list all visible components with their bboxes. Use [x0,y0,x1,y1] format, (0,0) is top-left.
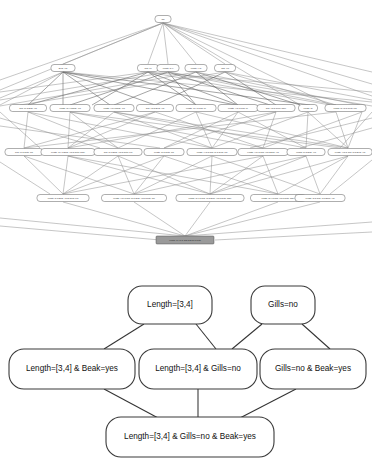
lattice-node[interactable]: Gills=no & Beak=yes [10,105,47,112]
lattice-node[interactable]: Gills=yes & Beak=yes [137,105,174,112]
svg-text:Length=[3,4]: Length=[3,4] [147,300,193,309]
svg-text:Gills=no & Beak=yes: Gills=no & Beak=yes [19,107,37,109]
svg-text:Length=[5] & Beak=yes & Teeth=: Length=[5] & Beak=yes & Teeth=few [48,197,79,199]
lattice-node[interactable]: Length=[3,4] & Beak=yes [50,105,90,112]
edge-length34-to-length34gills [196,324,216,349]
lattice-svg: Top Beak=yes Gills=no Length=[3,4] Lengt… [0,0,372,262]
svg-text:Gills=no & Beak=yes & Teeth=fe: Gills=no & Beak=yes & Teeth=few [104,151,133,153]
svg-text:Length=[5] & Teeth=few: Length=[5] & Teeth=few [154,151,175,153]
concept-sublattice-panel: Length=[3,4] Gills=no Length=[3,4] & Bea… [0,262,372,476]
lattice-node[interactable]: Length=[5] & Beak=yes [287,149,325,156]
lattice-node[interactable]: Length=[4,5] & Gills=yes & Beak=yes [238,149,288,156]
lattice-node[interactable]: Length=[3,4] [157,65,179,72]
svg-text:Gills=no: Gills=no [268,300,298,309]
lattice-node[interactable]: Length=[4,5] & Beak=yes [94,105,134,112]
lattice-node[interactable]: Length=[3,4] & Gills=no & Beak=yes & Tee… [176,195,244,202]
lattice-node[interactable]: Beak=yes [51,65,75,72]
lattice-node[interactable]: Gills=no & Teeth=few [5,149,43,156]
svg-text:Gills=no: Gills=no [145,67,152,69]
lattice-edges [0,23,372,240]
edge-length34beak-to-bottom [104,389,160,419]
lattice-node[interactable]: Length=[5] & Beak=yes & Teeth=few [37,195,89,202]
svg-text:Top: Top [161,18,164,20]
lattice-node[interactable]: Length=[3,4] & Gills=no [176,105,216,112]
lattice-node[interactable]: Length=[3,4,5] & Teeth=few [325,105,366,112]
svg-text:Gills=yes: Gills=yes [221,67,229,69]
concept-node-length-3-4-and-beak-yes[interactable]: Length=[3,4] & Beak=yes [9,349,135,389]
lattice-node[interactable]: Gills=no & Beak=yes & Teeth=few [94,149,142,156]
lattice-node[interactable]: Length=[3,4] & Beak=yes & Teeth=many [41,149,95,156]
lattice-node[interactable]: Length=[4,5] & Gills=no [218,105,258,112]
svg-text:Length=[3,4] & Beak=yes: Length=[3,4] & Beak=yes [26,364,118,373]
full-concept-lattice-panel: Top Beak=yes Gills=no Length=[3,4] Lengt… [0,0,372,262]
svg-text:Length=[5] & Beak=yes: Length=[5] & Beak=yes [296,151,316,153]
concept-node-length-3-4-and-gills-no-and-beak-yes[interactable]: Length=[3,4] & Gills=no & Beak=yes [106,417,274,457]
lattice-node[interactable]: Length=[4,5] & Gills=no & Beak=yes & Tee… [102,195,167,202]
lattice-node-highlighted[interactable]: Length=[3,4,5] & Gills & Beak & Teeth [156,236,214,244]
edge-gillsno-to-length34gills [232,324,262,349]
svg-text:Length=[3,4] & Gills=no & Beak: Length=[3,4] & Gills=no & Beak=yes [124,432,256,441]
lattice-node[interactable]: Length=[5] & Gills=no & Beak=yes [295,195,345,202]
lattice-node[interactable]: Length=[4,5] & Gills=no & Beak=yes [328,149,372,156]
lattice-node[interactable]: Top [155,16,171,23]
svg-text:Beak=yes: Beak=yes [59,67,67,69]
lattice-node[interactable]: Length=[5] & Teeth=few [144,149,184,156]
concept-svg: Length=[3,4] Gills=no Length=[3,4] & Bea… [0,262,372,476]
svg-text:Length=[5] & Gills=no & Beak=y: Length=[5] & Gills=no & Beak=yes [306,197,335,199]
lattice-node[interactable]: Gills=yes & Teeth=many [257,105,295,112]
concept-node-gills-no-and-beak-yes[interactable]: Gills=no & Beak=yes [260,349,366,389]
svg-text:Gills=yes & Teeth=many: Gills=yes & Teeth=many [266,107,286,109]
edge-length34-to-length34beak [104,324,144,349]
lattice-node[interactable]: Length=[4,5] [185,65,207,72]
lattice-node[interactable]: Length=[4,5] & Gills=no & Teeth=few [187,149,237,156]
concept-node-gills-no[interactable]: Gills=no [251,286,315,324]
edge-gillsno-to-gillsnobeak [302,324,330,349]
lattice-node[interactable]: Gills=no [138,65,159,72]
concept-node-length-3-4-and-gills-no[interactable]: Length=[3,4] & Gills=no [139,349,257,389]
lattice-node[interactable]: Gills=yes [215,65,236,72]
svg-text:Gills=no & Teeth=few: Gills=no & Teeth=few [15,151,33,153]
svg-text:Gills=yes & Beak=yes: Gills=yes & Beak=yes [146,107,164,109]
svg-text:Length=[5]: Length=[5] [304,107,313,109]
svg-text:Length=[3,4] & Gills=no: Length=[3,4] & Gills=no [155,364,241,373]
lattice-node[interactable]: Length=[5] [299,105,318,112]
svg-text:Gills=no & Beak=yes: Gills=no & Beak=yes [275,364,351,373]
figure-canvas: Top Beak=yes Gills=no Length=[3,4] Lengt… [0,0,372,476]
concept-node-length-3-4[interactable]: Length=[3,4] [128,286,212,324]
edge-gillsnobeak-to-bottom [238,389,296,419]
